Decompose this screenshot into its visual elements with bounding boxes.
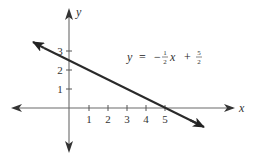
equation-equals: = (139, 50, 146, 64)
y-tick-label: 1 (57, 83, 63, 95)
line-arrow-right (190, 120, 204, 127)
x-tick-label: 3 (124, 113, 130, 125)
equation-plus: + (184, 50, 191, 64)
x-tick-label: 1 (86, 113, 92, 125)
coef-denominator: 2 (163, 58, 167, 66)
equation-minus: − (154, 50, 161, 64)
coef-numerator: 1 (163, 49, 167, 57)
y-tick-labels: 1 2 3 (57, 45, 63, 95)
y-axis-label: y (75, 5, 82, 19)
x-axis-label: x (238, 101, 245, 115)
equation-label: y = − 1 2 x + 5 2 (126, 49, 202, 66)
equation-lhs: y (126, 50, 133, 64)
y-tick-label: 2 (57, 64, 63, 76)
x-tick-label: 2 (105, 113, 111, 125)
line-arrow-left (33, 42, 44, 48)
x-tick-label: 5 (162, 113, 168, 125)
x-tick-labels: 1 2 3 4 5 (86, 113, 168, 125)
equation-variable: x (169, 50, 176, 64)
graph-canvas: 1 2 3 4 5 1 2 3 y x y = − 1 2 x + 5 2 (0, 0, 259, 160)
x-tick-label: 4 (143, 113, 149, 125)
const-denominator: 2 (197, 58, 201, 66)
const-numerator: 5 (197, 49, 201, 57)
